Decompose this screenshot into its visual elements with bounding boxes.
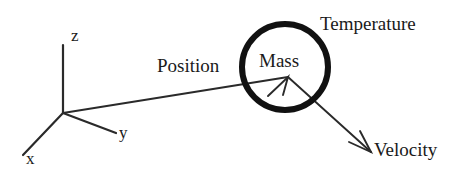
velocity-vector-label: Velocity (374, 140, 437, 159)
axis-label-y: y (119, 124, 128, 141)
velocity-vector-shaft (288, 77, 371, 152)
y-axis-line (63, 113, 116, 133)
temperature-label: Temperature (320, 14, 416, 33)
axis-label-x: x (26, 150, 35, 167)
axis-label-z: z (71, 27, 79, 44)
particle-state-diagram: z y x Position Mass Temperature Velocity (0, 0, 467, 177)
position-vector-label: Position (157, 56, 219, 75)
velocity-vector (288, 77, 371, 152)
mass-label: Mass (259, 51, 299, 70)
coordinate-axes (23, 45, 116, 155)
